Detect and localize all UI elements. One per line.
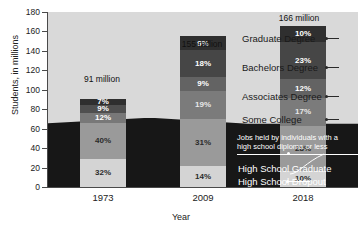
callout-associates-degree: Associates Degree [242, 91, 322, 102]
segment-hs-graduate-2009: 31% [180, 119, 226, 166]
leader-dot-graduate [325, 37, 328, 40]
segment-label: 40% [95, 136, 111, 145]
y-axis-title: Students, in millions [10, 15, 20, 135]
leader-dot-hs-graduate [287, 152, 290, 155]
y-tick [42, 148, 47, 149]
bar-total-1973: 91 million [57, 74, 147, 84]
x-tick-label-1973: 1973 [73, 192, 133, 203]
callout-hs-graduate: High School Graduate [238, 163, 331, 174]
segment-label: 31% [195, 138, 211, 147]
segment-hs-dropout-2009: 14% [180, 166, 226, 187]
segment-some-college-2009: 19% [180, 91, 226, 120]
stacked-bar-chart: 7% 9% 12% 40% 32% 9% 18% 9% [0, 0, 362, 232]
callout-some-college: Some College [242, 114, 302, 125]
y-tick [42, 129, 47, 130]
segment-label: 18% [195, 59, 211, 68]
segment-hs-graduate-1973: 40% [80, 123, 126, 158]
segment-label: 9% [197, 79, 209, 88]
bar-2009[interactable]: 9% 18% 9% 19% 31% 14% [180, 36, 226, 187]
callout-graduate-degree: Graduate Degree [242, 33, 315, 44]
segment-label: 32% [95, 168, 111, 177]
y-tick [42, 70, 47, 71]
segment-bachelors-2009: 18% [180, 50, 226, 77]
y-tick [42, 187, 47, 188]
segment-bachelors-1973: 9% [80, 105, 126, 113]
x-tick-label-2018: 2018 [273, 192, 333, 203]
y-tick [42, 109, 47, 110]
leader-dot-associates [325, 95, 328, 98]
y-tick [42, 51, 47, 52]
leader-line-bachelors [327, 67, 339, 68]
x-tick-label-2009: 2009 [173, 192, 233, 203]
segment-label: 12% [95, 113, 111, 122]
y-tick-label-40: 40 [10, 144, 40, 152]
leader-line-associates [327, 96, 339, 97]
y-tick [42, 90, 47, 91]
x-axis-line [47, 187, 358, 188]
x-axis-title: Year [0, 212, 362, 222]
bar-total-2009: 155 million [157, 39, 247, 49]
callout-bachelors-degree: Bachelors Degree [242, 62, 318, 73]
bar-1973[interactable]: 7% 9% 12% 40% 32% [80, 99, 126, 187]
leader-dot-bachelors [325, 66, 328, 69]
segment-bachelors-2018: 23% [280, 42, 326, 79]
leader-dot-some-college [325, 118, 328, 121]
segment-associates-2009: 9% [180, 77, 226, 91]
leader-line-graduate [327, 38, 339, 39]
y-tick-label-20: 20 [10, 164, 40, 172]
segment-hs-dropout-1973: 32% [80, 159, 126, 187]
y-axis-line [47, 12, 48, 188]
leader-line-some-college [327, 119, 339, 120]
segment-label: 14% [195, 172, 211, 181]
y-tick-label-0: 0 [10, 183, 40, 191]
y-tick [42, 168, 47, 169]
jobs-annotation-line1: Jobs held by individuals with a [237, 133, 338, 142]
y-tick [42, 31, 47, 32]
bar-total-2018: 166 million [254, 13, 344, 23]
segment-associates-1973: 12% [80, 113, 126, 124]
segment-label: 19% [195, 100, 211, 109]
callout-hs-dropout: High School Dropout [238, 176, 326, 187]
y-tick [42, 12, 47, 13]
